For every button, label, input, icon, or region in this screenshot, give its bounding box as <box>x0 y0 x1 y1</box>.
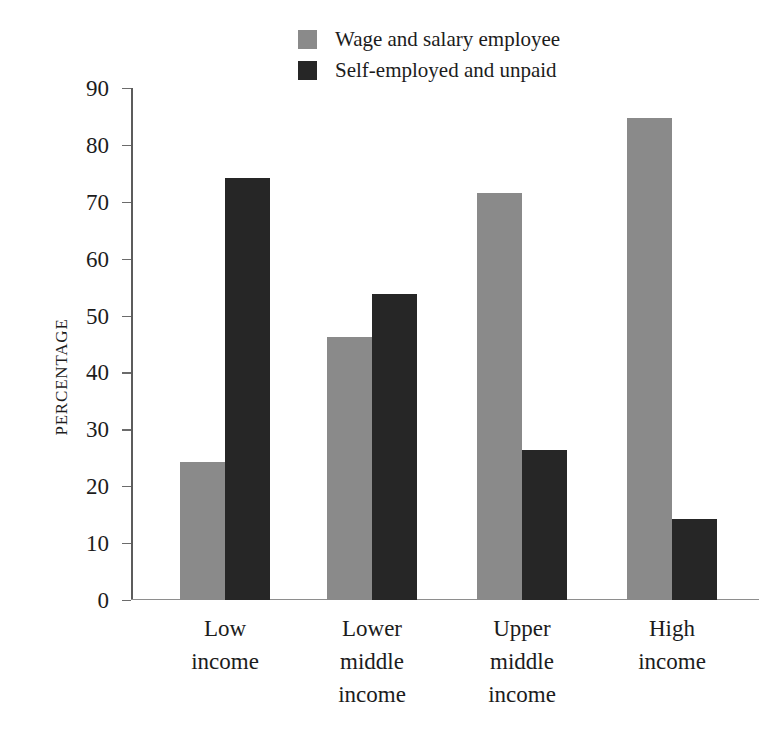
y-axis-tick-label: 60 <box>86 247 109 270</box>
bars-layer <box>131 88 759 600</box>
legend-item-wage-and-salary-employee: Wage and salary employee <box>298 24 628 55</box>
y-axis-title-text: PERCENTAGE <box>52 318 72 435</box>
y-axis-tick-label: 70 <box>86 190 109 213</box>
legend-label-wage: Wage and salary employee <box>335 29 560 50</box>
y-axis-tick: 80 <box>122 145 131 146</box>
legend-swatch-icon-wage <box>298 30 317 49</box>
legend-label-self-employed: Self-employed and unpaid <box>335 60 557 81</box>
y-axis-tick: 0 <box>122 600 131 601</box>
y-axis-tick-label: 80 <box>86 133 109 156</box>
bar-wage-group-2 <box>327 337 372 600</box>
y-axis-tick: 10 <box>122 543 131 544</box>
bar-wage-group-1 <box>180 462 225 600</box>
y-axis-tick: 70 <box>122 202 131 203</box>
y-axis-tick: 50 <box>122 316 131 317</box>
y-axis-tick-label: 20 <box>86 475 109 498</box>
x-axis-category-label: High income <box>582 612 762 678</box>
y-axis-tick: 30 <box>122 429 131 430</box>
y-axis-tick-label: 50 <box>86 304 109 327</box>
legend-item-self-employed-and-unpaid: Self-employed and unpaid <box>298 55 628 86</box>
y-axis-tick-label: 10 <box>86 532 109 555</box>
y-axis-tick: 40 <box>122 372 131 373</box>
x-axis-category-labels: Low incomeLower middle incomeUpper middl… <box>131 612 759 732</box>
bar-self-employed-group-4 <box>672 519 717 600</box>
y-axis-tick-label: 30 <box>86 418 109 441</box>
legend-swatch-icon-self-employed <box>298 61 317 80</box>
y-axis-tick-label: 0 <box>98 589 110 612</box>
bar-self-employed-group-2 <box>372 294 417 600</box>
y-axis-tick: 60 <box>122 259 131 260</box>
y-axis-tick-label: 40 <box>86 361 109 384</box>
chart-legend: Wage and salary employee Self-employed a… <box>298 24 628 86</box>
bar-wage-group-3 <box>477 193 522 600</box>
y-axis-title: PERCENTAGE <box>46 0 78 742</box>
bar-self-employed-group-1 <box>225 178 270 600</box>
plot-area: 0102030405060708090 <box>131 88 759 600</box>
y-axis-tick-label: 90 <box>86 77 109 100</box>
y-axis-tick: 90 <box>122 88 131 89</box>
bar-chart: Wage and salary employee Self-employed a… <box>0 0 775 742</box>
bar-wage-group-4 <box>627 118 672 600</box>
y-axis-tick: 20 <box>122 486 131 487</box>
bar-self-employed-group-3 <box>522 450 567 600</box>
